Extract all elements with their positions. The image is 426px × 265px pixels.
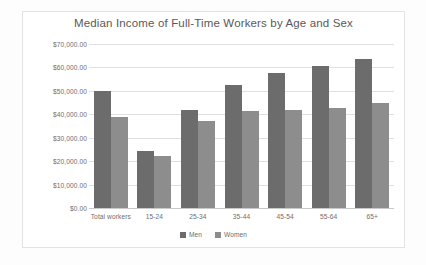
bar-group [89,44,133,208]
y-axis: $70,000.00$60,000.00$50,000.00$40,000.00… [29,44,87,208]
legend-label: Men [189,231,202,238]
bar-men [137,151,154,208]
bar-group [220,44,264,208]
bar-women [242,111,259,208]
legend-label: Women [224,231,247,238]
x-axis-tick-label: 15-24 [133,210,177,224]
y-axis-tick-label: $30,000.00 [53,134,87,141]
bar-women [198,121,215,208]
y-axis-tick-label: $50,000.00 [53,87,87,94]
bar-women [285,110,302,208]
y-axis-tick-label: $60,000.00 [53,64,87,71]
bar-women [372,103,389,208]
legend-swatch-icon [180,232,186,238]
bar-group [307,44,351,208]
legend-item-men[interactable]: Men [180,231,202,238]
x-axis-tick-label: 55-64 [307,210,351,224]
plot-area [89,44,394,208]
y-axis-tick-label: $70,000.00 [53,41,87,48]
chart-panel: Median Income of Full-Time Workers by Ag… [22,11,405,248]
y-axis-tick-label: $0.00 [70,205,87,212]
x-axis-tick-label: Total workers [89,210,133,224]
bar-men [312,66,329,208]
x-axis-tick-label: 25-34 [176,210,220,224]
x-axis: Total workers15-2425-3435-4445-5455-6465… [89,210,394,224]
bar-men [94,91,111,208]
bar-group [350,44,394,208]
x-axis-tick-label: 45-54 [263,210,307,224]
bar-group [133,44,177,208]
bar-women [111,117,128,208]
bar-group [263,44,307,208]
axis-baseline [89,208,394,209]
legend-swatch-icon [215,232,221,238]
x-axis-tick-label: 35-44 [220,210,264,224]
plot-wrapper: $70,000.00$60,000.00$50,000.00$40,000.00… [23,12,404,247]
chart-legend: MenWomen [23,231,404,238]
x-axis-tick-label: 65+ [350,210,394,224]
y-axis-tick-label: $10,000.00 [53,181,87,188]
y-axis-tick-label: $20,000.00 [53,158,87,165]
legend-item-women[interactable]: Women [215,231,247,238]
bar-women [154,156,171,208]
y-axis-tick-label: $40,000.00 [53,111,87,118]
bar-men [181,110,198,208]
bar-men [268,73,285,208]
bar-men [225,85,242,208]
bar-men [355,59,372,208]
bar-groups [89,44,394,208]
screenshot-root: Median Income of Full-Time Workers by Ag… [0,0,426,265]
bar-women [329,108,346,208]
bar-group [176,44,220,208]
